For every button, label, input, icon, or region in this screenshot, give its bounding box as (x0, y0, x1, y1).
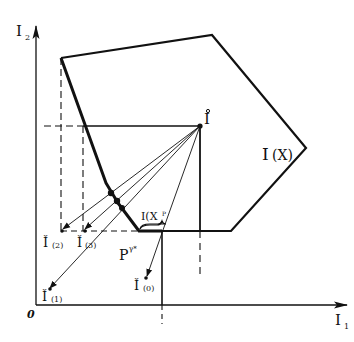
region-label-paren: (X) (272, 147, 293, 163)
pareto-subset: I(X P (140, 210, 166, 229)
pareto-subset-label: I(X (141, 210, 158, 223)
ref-point-1-dot (48, 287, 52, 291)
y-axis-label: I (16, 22, 22, 40)
region-label: I (262, 144, 269, 164)
feasible-region: I (X) (61, 35, 306, 231)
ref-point-2-dot (60, 229, 64, 233)
ref-point-1-label: Ǐ (42, 289, 47, 304)
ray-to-ref-1 (50, 126, 200, 288)
ref-point-2-sub: (2) (52, 241, 63, 250)
ref-point-0-dot (144, 276, 148, 280)
ref-point-1-sub: (1) (51, 295, 62, 304)
intersection-point (108, 190, 114, 196)
ref-point-3-sub: (3) (85, 241, 96, 250)
ideal-point-dot (197, 123, 202, 128)
x-axis-subscript: 1 (344, 322, 349, 331)
pareto-point-label: P (119, 247, 128, 263)
pareto-point-sup: γ* (129, 245, 137, 253)
ideal-point: I (204, 109, 210, 128)
intersection-point (119, 205, 125, 211)
ray-to-ref-0 (147, 230, 163, 276)
ref-point-0-label: Ǐ (134, 278, 139, 293)
reference-points: Ǐ (2) Ǐ (3) Ǐ (1) Ǐ (0) (42, 229, 154, 304)
ref-point-2-label: Ǐ (43, 235, 48, 250)
region-boundary (61, 35, 306, 231)
ray-to-ref-0-upper (163, 126, 200, 230)
intersection-point (114, 198, 120, 204)
ref-point-3-label: Ǐ (77, 235, 82, 250)
ref-point-0-sub: (0) (143, 284, 154, 293)
pareto-point: P γ* (119, 245, 137, 263)
ray-to-ref-2 (63, 126, 200, 229)
rays (50, 126, 200, 288)
x-axis-label: I (335, 311, 341, 329)
origin-label: 0 (27, 308, 35, 321)
pareto-subset-sup: P (162, 210, 166, 217)
ref-point-3-dot (83, 229, 87, 233)
y-axis-subscript: 2 (25, 33, 30, 42)
diagram-canvas: I 2 I 1 0 I (X) (0, 0, 354, 342)
